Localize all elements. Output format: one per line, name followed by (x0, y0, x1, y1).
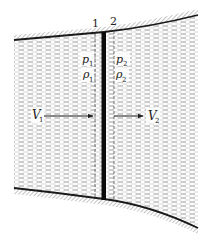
shock-wave-diagram: 1 2 p 1 ρ 1 p 2 ρ 2 V 1 V 2 (0, 0, 210, 242)
downstream-pressure-label: p 2 (115, 52, 130, 68)
shock-wave (102, 32, 107, 200)
upstream-pressure-label: p 1 (80, 52, 94, 68)
svg-text:p: p (82, 53, 89, 66)
svg-text:1: 1 (89, 76, 93, 84)
svg-text:1: 1 (89, 60, 93, 68)
downstream-density-label: ρ 2 (115, 68, 129, 84)
svg-text:2: 2 (122, 76, 126, 84)
svg-text:2: 2 (123, 60, 127, 68)
svg-text:1: 1 (39, 116, 43, 124)
section-2-label: 2 (110, 15, 117, 28)
section-1-label: 1 (92, 17, 99, 30)
svg-text:2: 2 (155, 117, 159, 125)
upstream-density-label: ρ 1 (81, 68, 94, 84)
svg-text:p: p (116, 53, 123, 66)
